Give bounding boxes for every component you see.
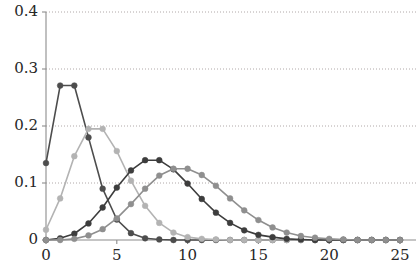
series-data-point (171, 230, 177, 236)
series-group (43, 83, 403, 243)
series-data-point (171, 166, 177, 172)
series-data-point (227, 220, 233, 226)
series-data-point (43, 237, 49, 243)
series-data-point (213, 210, 219, 216)
series-data-point (171, 237, 177, 243)
x-axis-tick-label: 25 (380, 248, 418, 263)
series-data-point (142, 235, 148, 241)
series-data-point (142, 203, 148, 209)
y-axis-tick-label: 0 (28, 232, 38, 247)
series-data-point (100, 186, 106, 192)
x-axis-tick-label: 10 (168, 248, 208, 263)
series-data-point (128, 230, 134, 236)
series-data-point (100, 205, 106, 211)
series-data-point (57, 237, 63, 243)
series-data-point (270, 234, 276, 240)
x-axis-tick-label: 20 (309, 248, 349, 263)
series-data-point (128, 178, 134, 184)
x-axis-tick-label: 15 (238, 248, 278, 263)
series-data-point (227, 195, 233, 201)
series-data-point (43, 227, 49, 233)
chart-plot-area (0, 0, 418, 270)
series-data-point (199, 196, 205, 202)
series-data-point (298, 233, 304, 239)
series-data-point (86, 126, 92, 132)
series-data-point (185, 166, 191, 172)
series-line (46, 160, 400, 240)
series-data-point (142, 157, 148, 163)
series-data-point (114, 148, 120, 154)
series-data-point (227, 237, 233, 243)
series-data-point (256, 217, 262, 223)
series-data-point (199, 172, 205, 178)
series-data-point (284, 230, 290, 236)
series-data-point (100, 226, 106, 232)
series-data-point (369, 237, 375, 243)
chart-container: 00.10.20.30.4 0510152025 (0, 0, 418, 270)
x-axis-tick-label: 0 (26, 248, 66, 263)
x-axis-tick-label: 5 (97, 248, 137, 263)
series-data-point (270, 225, 276, 231)
series-data-point (312, 235, 318, 241)
series-data-point (100, 126, 106, 132)
series-line (46, 169, 400, 240)
series-data-point (256, 232, 262, 238)
series-data-point (185, 181, 191, 187)
series-data-point (241, 227, 247, 233)
series-data-point (185, 234, 191, 240)
series-data-point (156, 220, 162, 226)
series-data-point (156, 157, 162, 163)
series-data-point (340, 237, 346, 243)
y-axis-tick-label: 0.2 (14, 118, 38, 133)
series-data-point (241, 207, 247, 213)
series-data-point (156, 173, 162, 179)
series-data-point (326, 236, 332, 242)
series-data-point (57, 83, 63, 89)
series-data-point (213, 237, 219, 243)
series-data-point (397, 237, 403, 243)
series-data-point (355, 237, 361, 243)
series-data-point (86, 221, 92, 227)
series-data-point (128, 168, 134, 174)
series-data-point (128, 201, 134, 207)
y-axis-tick-label: 0.4 (14, 4, 38, 19)
series-data-point (71, 83, 77, 89)
y-axis-tick-label: 0.1 (14, 175, 38, 190)
series-line (46, 129, 400, 240)
series-data-point (86, 135, 92, 141)
series-data-point (57, 195, 63, 201)
series-data-point (43, 160, 49, 166)
axes-group (42, 12, 416, 244)
series-data-point (383, 237, 389, 243)
series-data-point (114, 185, 120, 191)
series-data-point (156, 237, 162, 243)
gridlines-group (46, 12, 416, 183)
series-data-point (284, 236, 290, 242)
y-axis-tick-label: 0.3 (14, 61, 38, 76)
series-data-point (199, 236, 205, 242)
series-data-point (142, 186, 148, 192)
series-data-point (86, 233, 92, 239)
series-data-point (71, 153, 77, 159)
series-data-point (241, 237, 247, 243)
series-data-point (114, 215, 120, 221)
series-data-point (71, 236, 77, 242)
series-data-point (213, 183, 219, 189)
